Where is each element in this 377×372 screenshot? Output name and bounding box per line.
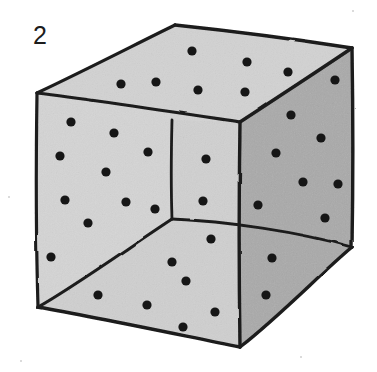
dot-right-face-4: [298, 177, 307, 186]
edge-left-vertical: [36, 93, 38, 307]
dot-top-face-6: [193, 85, 202, 94]
dot-bottom-face-7: [178, 322, 187, 331]
dot-left-face-1: [66, 117, 75, 126]
dot-bottom-face-2: [142, 300, 151, 309]
dot-top-face-5: [151, 77, 160, 86]
dot-right-face-6: [253, 200, 262, 209]
paper-speck: [8, 196, 10, 198]
dot-back-inner-face-2: [198, 196, 207, 205]
dot-bottom-face-9: [261, 290, 270, 299]
figure-number-label: 2: [33, 23, 47, 48]
dot-left-face-3: [143, 147, 152, 156]
figure-container: 2: [0, 0, 377, 372]
dot-right-face-3: [271, 148, 280, 157]
dot-back-inner-face-1: [201, 154, 210, 163]
paper-speck: [352, 10, 354, 12]
dot-right-face-2: [316, 133, 325, 142]
paper-speck: [300, 356, 302, 358]
dot-top-face-3: [283, 67, 292, 76]
dot-left-face-4: [55, 151, 64, 160]
edge-right-vertical: [352, 48, 353, 247]
dot-left-face-10: [46, 252, 55, 261]
dot-right-face-1: [286, 110, 295, 119]
dot-right-face-5: [333, 179, 342, 188]
dot-left-face-9: [83, 218, 92, 227]
dot-top-face-4: [116, 79, 125, 88]
edge-hidden-back-vertical: [171, 120, 172, 219]
dot-bottom-face-8: [267, 253, 276, 262]
dot-left-face-6: [60, 195, 69, 204]
dot-top-face-1: [187, 46, 196, 55]
dot-top-face-8: [330, 75, 339, 84]
dot-bottom-face-6: [210, 307, 219, 316]
dot-top-face-7: [240, 87, 249, 96]
dot-left-face-5: [101, 167, 110, 176]
dot-top-face-2: [242, 57, 251, 66]
dot-bottom-face-1: [93, 290, 102, 299]
cube-figure-svg: [0, 0, 377, 372]
dot-right-face-7: [320, 213, 329, 222]
dot-bottom-face-4: [206, 234, 215, 243]
dot-left-face-8: [150, 204, 159, 213]
dot-left-face-7: [121, 197, 130, 206]
dot-left-face-2: [109, 128, 118, 137]
dot-bottom-face-3: [167, 257, 176, 266]
edge-front-vertical: [239, 122, 240, 347]
dot-bottom-face-5: [181, 276, 190, 285]
paper-speck: [20, 360, 22, 362]
